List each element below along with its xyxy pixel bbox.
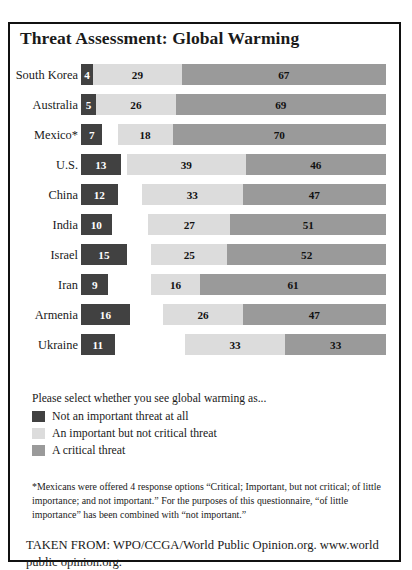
- bar-segment-not-important: 11: [81, 334, 115, 355]
- chart-row: India105127: [10, 210, 399, 240]
- stacked-bar: 134639: [81, 154, 386, 175]
- chart-row: Mexico*77018: [10, 120, 399, 150]
- bar-segment-not-important: 10: [81, 214, 112, 235]
- bar-segment-important-not-critical: 26: [96, 94, 175, 115]
- page-title: Threat Assessment: Global Warming: [20, 28, 299, 49]
- bar-segment-important-not-critical: 33: [142, 184, 243, 205]
- bar-segment-important-not-critical: 39: [127, 154, 246, 175]
- legend-label: An important but not critical threat: [52, 426, 217, 441]
- chart-legend: Please select whether you see global war…: [32, 392, 382, 459]
- bar-segment-critical: 47: [243, 184, 386, 205]
- row-label: Iran: [10, 278, 78, 293]
- chart-row: South Korea46729: [10, 60, 399, 90]
- stacked-bar: 124733: [81, 184, 386, 205]
- stacked-bar: 96116: [81, 274, 386, 295]
- row-label: South Korea: [10, 68, 78, 83]
- row-label: U.S.: [10, 158, 78, 173]
- legend-swatch-critical: [32, 445, 45, 456]
- bar-segment-not-important: 7: [81, 124, 102, 145]
- bar-segment-critical: 70: [173, 124, 387, 145]
- stacked-bar: 113333: [81, 334, 386, 355]
- bar-segment-important-not-critical: 26: [163, 304, 242, 325]
- bar-segment-not-important: 5: [81, 94, 96, 115]
- chart-frame: Threat Assessment: Global Warming South …: [8, 22, 401, 562]
- bar-segment-not-important: 15: [81, 244, 127, 265]
- bar-segment-important-not-critical: 33: [185, 334, 286, 355]
- row-label: India: [10, 218, 78, 233]
- legend-item: An important but not critical threat: [32, 425, 382, 442]
- bar-segment-important-not-critical: 16: [151, 274, 200, 295]
- row-label: Ukraine: [10, 338, 78, 353]
- legend-prompt: Please select whether you see global war…: [32, 392, 382, 405]
- chart-row: Australia56926: [10, 90, 399, 120]
- bar-segment-not-important: 16: [81, 304, 130, 325]
- bar-segment-critical: 61: [200, 274, 386, 295]
- chart-row: Israel155225: [10, 240, 399, 270]
- bar-segment-critical: 69: [176, 94, 386, 115]
- stacked-bar: 46729: [81, 64, 386, 85]
- bar-segment-not-important: 9: [81, 274, 108, 295]
- chart-row: U.S.134639: [10, 150, 399, 180]
- legend-label: A critical threat: [52, 443, 125, 458]
- row-label: Israel: [10, 248, 78, 263]
- chart-row: Armenia164726: [10, 300, 399, 330]
- bar-segment-critical: 52: [227, 244, 386, 265]
- stacked-bar: 77018: [81, 124, 386, 145]
- bar-segment-not-important: 13: [81, 154, 121, 175]
- bar-segment-important-not-critical: 25: [151, 244, 227, 265]
- row-label: China: [10, 188, 78, 203]
- chart-row: Iran96116: [10, 270, 399, 300]
- footnote: *Mexicans were offered 4 response option…: [32, 480, 390, 522]
- bar-segment-not-important: 4: [81, 64, 93, 85]
- bar-segment-critical: 33: [285, 334, 386, 355]
- chart-row: China124733: [10, 180, 399, 210]
- legend-swatch-not-important: [32, 411, 45, 422]
- stacked-bar: 56926: [81, 94, 386, 115]
- bar-segment-critical: 46: [246, 154, 386, 175]
- bar-segment-not-important: 12: [81, 184, 118, 205]
- bar-segment-important-not-critical: 27: [148, 214, 230, 235]
- bar-segment-critical: 51: [230, 214, 386, 235]
- legend-label: Not an important threat at all: [52, 409, 189, 424]
- legend-item: Not an important threat at all: [32, 408, 382, 425]
- legend-swatch-important-not-critical: [32, 428, 45, 439]
- source-attribution: TAKEN FROM: WPO/CCGA/World Public Opinio…: [26, 537, 392, 570]
- stacked-bar: 155225: [81, 244, 386, 265]
- legend-item: A critical threat: [32, 442, 382, 459]
- row-label: Australia: [10, 98, 78, 113]
- stacked-bar-chart: South Korea46729Australia56926Mexico*770…: [10, 60, 399, 360]
- row-label: Armenia: [10, 308, 78, 323]
- chart-row: Ukraine113333: [10, 330, 399, 360]
- stacked-bar: 164726: [81, 304, 386, 325]
- stacked-bar: 105127: [81, 214, 386, 235]
- bar-segment-important-not-critical: 29: [93, 64, 181, 85]
- bar-segment-critical: 67: [182, 64, 386, 85]
- row-label: Mexico*: [10, 128, 78, 143]
- bar-segment-important-not-critical: 18: [118, 124, 173, 145]
- bar-segment-critical: 47: [243, 304, 386, 325]
